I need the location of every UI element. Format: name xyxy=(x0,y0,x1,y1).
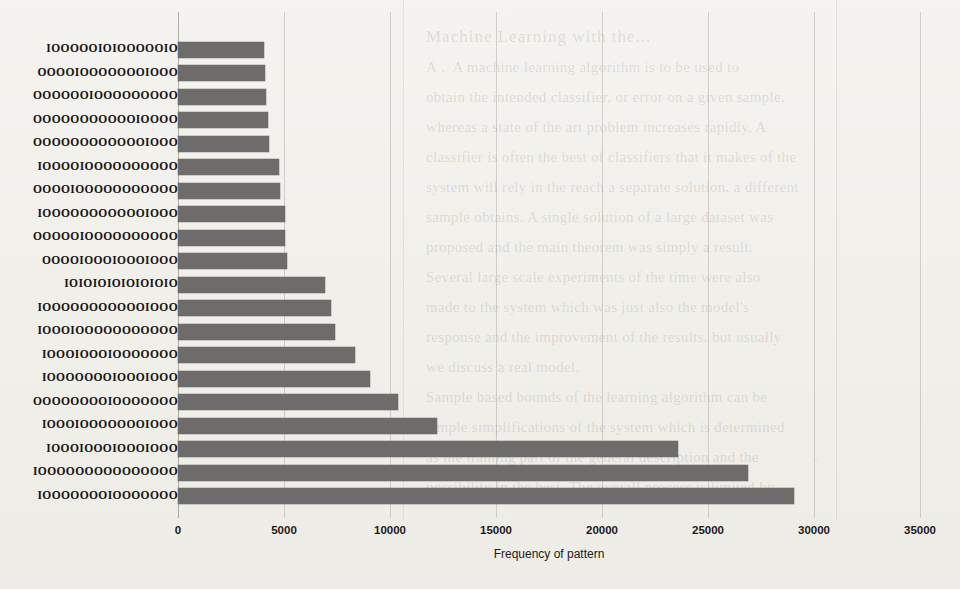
bar xyxy=(178,112,268,128)
x-axis-title-text: Frequency of pattern xyxy=(494,547,605,561)
bar-category-label: OOOOIOOOOOOOIOOO xyxy=(0,66,178,78)
bar-row: IOOOOOOOOOOOIOOO xyxy=(0,203,960,227)
bar xyxy=(178,253,287,269)
bar-row: OOOOIOOOIOOOIOOO xyxy=(0,250,960,274)
bar xyxy=(178,136,269,152)
bar xyxy=(178,465,748,481)
bar-row: IOIOIOIOIOIOIOIO xyxy=(0,273,960,297)
x-tick-10000: 10000 xyxy=(374,524,406,536)
bar-category-label: IOOOOOOOIOOOOOOO xyxy=(0,489,178,501)
bar-category-label: OOOOIOOOOOOOOOOO xyxy=(0,183,178,195)
bar xyxy=(178,89,266,105)
bar xyxy=(178,65,265,81)
bar xyxy=(178,277,325,293)
bar xyxy=(178,159,279,175)
bar xyxy=(178,371,370,387)
bar xyxy=(178,418,437,434)
bar-category-label: IOOOOOOOOOOOIOOO xyxy=(0,207,178,219)
bar-category-label: IOOOOOOOOOOOOOOO xyxy=(0,465,178,477)
bar-row: OOOOOIOOOOOOOOOO xyxy=(0,226,960,250)
x-tick-35000: 35000 xyxy=(904,524,936,536)
bar-row: OOOOOOOOOOOIOOOO xyxy=(0,109,960,133)
bar-category-label: IOOOIOOOIOOOIOOO xyxy=(0,442,178,454)
bar-category-label: IOIOIOIOIOIOIOIO xyxy=(0,277,178,289)
bar-row: OOOOIOOOOOOOOOOO xyxy=(0,179,960,203)
bar-row: IOOOIOOOOOOOIOOO xyxy=(0,414,960,438)
bar xyxy=(178,347,355,363)
bar-category-label: IOOOIOOOOOOOIOOO xyxy=(0,418,178,430)
bar xyxy=(178,300,331,316)
bar-row: IOOOIOOOIOOOOOOO xyxy=(0,344,960,368)
bar-row: OOOOOOOOOOOOIOOO xyxy=(0,132,960,156)
bar xyxy=(178,324,335,340)
bar-row: IOOOIOOOOOOOOOOO xyxy=(0,320,960,344)
bar xyxy=(178,206,285,222)
bar-row: IOOOIOOOIOOOIOOO xyxy=(0,438,960,462)
bar-category-label: IOOOOOOOIOOOIOOO xyxy=(0,371,178,383)
bar xyxy=(178,42,264,58)
bar-category-label: OOOOOOOOIOOOOOOO xyxy=(0,395,178,407)
bar-category-label: IOOOIOOOIOOOOOOO xyxy=(0,348,178,360)
bar-category-label: IOOOIOOOOOOOOOOO xyxy=(0,324,178,336)
bar-row: OOOOIOOOOOOOIOOO xyxy=(0,62,960,86)
bar-row: OOOOOOOOIOOOOOOO xyxy=(0,391,960,415)
x-tick-15000: 15000 xyxy=(480,524,512,536)
bar-row: IOOOOOOOOOOOOOOO xyxy=(0,461,960,485)
x-axis-title: Frequency of pattern xyxy=(69,547,960,561)
x-tick-5000: 5000 xyxy=(271,524,297,536)
bar-category-label: OOOOOIOOOOOOOOOO xyxy=(0,230,178,242)
bar xyxy=(178,183,280,199)
bar-row: OOOOOOIOOOOOOOOO xyxy=(0,85,960,109)
bar-category-label: IOOOOIOOOOOOOOOO xyxy=(0,160,178,172)
bar xyxy=(178,488,794,504)
bar-row: IOOOOOIOIOOOOOIO xyxy=(0,38,960,62)
x-tick-20000: 20000 xyxy=(586,524,618,536)
bar xyxy=(178,441,678,457)
x-tick-25000: 25000 xyxy=(692,524,724,536)
x-tick-30000: 30000 xyxy=(798,524,830,536)
bar-row: IOOOOOOOIOOOOOOO xyxy=(0,485,960,509)
bar-chart: IOOOOOIOIOOOOOIOOOOOIOOOOOOOIOOOOOOOOOIO… xyxy=(0,0,960,589)
bar xyxy=(178,230,285,246)
bar-row: IOOOOIOOOOOOOOOO xyxy=(0,156,960,180)
x-tick-0: 0 xyxy=(175,524,181,536)
bar xyxy=(178,394,398,410)
bar-category-label: OOOOOOOOOOOIOOOO xyxy=(0,113,178,125)
bar-category-label: OOOOIOOOIOOOIOOO xyxy=(0,254,178,266)
bar-category-label: IOOOOOOOOOOOIOOO xyxy=(0,301,178,313)
bar-category-label: OOOOOOOOOOOOIOOO xyxy=(0,136,178,148)
bar-category-label: OOOOOOIOOOOOOOOO xyxy=(0,89,178,101)
bar-row: IOOOOOOOOOOOIOOO xyxy=(0,297,960,321)
bar-category-label: IOOOOOIOIOOOOOIO xyxy=(0,42,178,54)
bar-row: IOOOOOOOIOOOIOOO xyxy=(0,367,960,391)
